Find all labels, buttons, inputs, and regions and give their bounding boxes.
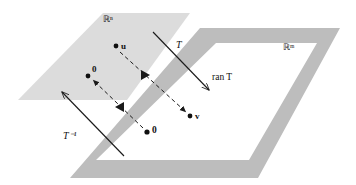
point-v-dot <box>188 114 193 119</box>
linear-transformation-diagram: T T⁻¹ u 0 v <box>0 0 356 185</box>
ran-t-label: ran T <box>212 72 232 82</box>
point-v-label: v <box>195 111 200 121</box>
forward-arrow-label: T <box>176 39 183 50</box>
codomain-plane-label: ℝᵐ <box>283 42 295 52</box>
inverse-arrow-line <box>62 92 124 156</box>
inverse-transform-arrow: T⁻¹ <box>62 92 124 156</box>
point-zero-domain-label: 0 <box>92 64 97 74</box>
point-v: v <box>188 111 200 121</box>
inverse-arrow-label: T⁻¹ <box>63 130 77 141</box>
point-zero-codomain-dot <box>144 129 149 134</box>
dashed-zero-zero-midhead <box>115 102 124 112</box>
point-zero-codomain: 0 <box>144 125 157 135</box>
domain-plane-label: ℝⁿ <box>103 14 113 24</box>
point-zero-domain-dot <box>86 74 91 79</box>
point-zero-codomain-label: 0 <box>152 125 157 135</box>
point-u-label: u <box>121 41 126 51</box>
diagram-canvas: T T⁻¹ u 0 v <box>0 0 356 185</box>
point-u-dot <box>114 44 119 49</box>
